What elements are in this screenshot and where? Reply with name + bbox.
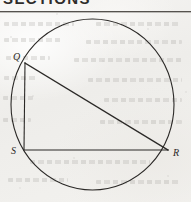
geometry-figure: Q S R xyxy=(0,0,191,202)
vertex-label-r: R xyxy=(172,147,179,158)
vertex-label-q: Q xyxy=(13,51,21,62)
segment-qr xyxy=(25,63,168,150)
vertex-label-s: S xyxy=(11,145,16,156)
scanned-page: SECTIONS Q S R xyxy=(0,0,191,202)
segment-qs xyxy=(24,63,25,150)
geometry-figure-svg: Q S R xyxy=(0,0,191,202)
